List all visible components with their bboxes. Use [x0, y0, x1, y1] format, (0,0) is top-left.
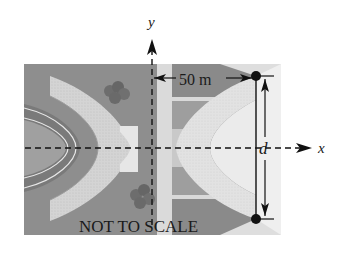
y-axis-label: y — [146, 14, 155, 30]
vertical-road — [157, 64, 172, 235]
distance-50m-label: 50 m — [179, 71, 212, 88]
road-curve-diagram: x y 50 m d NOT TO SCALE — [0, 0, 345, 260]
not-to-scale-note: NOT TO SCALE — [79, 217, 198, 236]
distance-d-label: d — [259, 139, 268, 158]
x-axis-label: x — [317, 140, 325, 156]
